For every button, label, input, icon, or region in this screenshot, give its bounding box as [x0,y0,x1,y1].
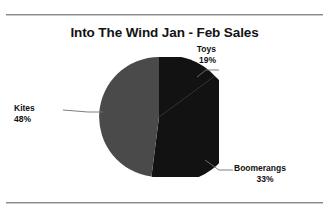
top-divider-rule [6,14,323,15]
pie-slice-kites[interactable] [99,57,159,177]
data-label-toys: Toys 19% [150,44,216,66]
data-label-boomerangs-percent: 33% [234,174,296,185]
data-label-toys-name: Toys [197,44,216,54]
leader-line-kites [63,110,103,112]
pie-svg [99,57,219,177]
chart-screenshot: Into The Wind Jan - Feb Sales Toys 19% K… [0,0,329,211]
chart-title: Into The Wind Jan - Feb Sales [0,25,329,40]
data-label-kites-percent: 48% [14,114,62,125]
data-label-kites: Kites 48% [14,103,62,125]
data-label-toys-percent: 19% [150,55,216,66]
pie-chart-graphic [99,57,219,177]
data-label-boomerangs: Boomerangs 33% [234,163,314,185]
data-label-boomerangs-name: Boomerangs [234,163,286,173]
bottom-divider-rule [6,202,323,203]
data-label-kites-name: Kites [14,103,35,113]
